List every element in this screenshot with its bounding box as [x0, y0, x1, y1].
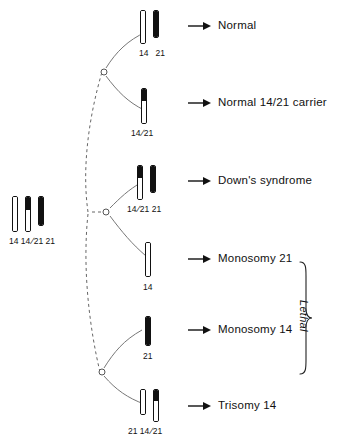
chromosome-21: [38, 196, 44, 226]
outcome-monosomy-21: Monosomy 21: [218, 252, 292, 264]
chromosome-14: [12, 196, 18, 232]
gamete-group-monosomy-21: [145, 242, 151, 277]
chromosome-14: [145, 242, 151, 277]
parent-genotype-label: 14 14/21 21: [9, 236, 55, 246]
arrow-head-6: [203, 402, 211, 410]
lethal-annotation: Lethal: [298, 300, 310, 332]
arrow-head-3: [203, 177, 211, 185]
chromosome-21: [145, 316, 151, 346]
arrow-head-1: [203, 22, 211, 30]
arrow-head-5: [203, 326, 211, 334]
outcome-monosomy-14: Monosomy 14: [218, 323, 292, 335]
arrow-head-2: [203, 99, 211, 107]
outcome-normal-carrier: Normal 14/21 carrier: [218, 96, 327, 108]
outcome-trisomy-14: Trisomy 14: [218, 399, 276, 411]
gamete-group-trisomy-14: [140, 389, 159, 422]
chromosome-21: [153, 10, 159, 38]
gamete-label-trisomy-14: 21 14/21: [128, 426, 162, 436]
dashed-edge-to-node-1: [86, 72, 102, 212]
meiosis-node-2: [103, 209, 109, 215]
branch-node3-upper: [104, 330, 142, 368]
chromosome-14-21-translocation: [153, 389, 159, 422]
gamete-group-normal: [140, 10, 159, 44]
gamete-label-monosomy-21: 14: [143, 282, 152, 292]
chromosome-14-21-translocation: [25, 196, 31, 232]
branch-node2-lower: [110, 216, 146, 256]
outcome-normal: Normal: [218, 19, 256, 31]
chromosome-21-short: [140, 389, 146, 415]
branch-node3-lower: [104, 376, 144, 404]
gamete-group-normal-carrier: [141, 88, 147, 124]
chromosome-14-21-translocation: [137, 165, 143, 200]
meiosis-node-3: [99, 369, 105, 375]
arrow-head-4: [203, 255, 211, 263]
chromosome-21: [150, 165, 156, 193]
gamete-label-downs-syndrome: 14/21 21: [127, 204, 161, 214]
dashed-edge-to-node-3: [86, 214, 100, 372]
gamete-label-monosomy-14: 21: [143, 351, 152, 361]
gamete-group-monosomy-14: [145, 316, 151, 346]
pedigree-edges: [0, 0, 337, 447]
parent-genotype-chromosomes: [12, 196, 44, 232]
translocation-segregation-diagram: 14 14/21 21 14 21 Normal: [0, 0, 337, 447]
gamete-label-normal-carrier: 14/21: [131, 128, 153, 138]
chromosome-14: [140, 10, 146, 44]
outcome-downs-syndrome: Down's syndrome: [218, 174, 312, 186]
branch-node1-lower: [106, 76, 144, 110]
meiosis-node-1: [101, 69, 107, 75]
chromosome-14-21-translocation: [141, 88, 147, 124]
gamete-label-normal: 14 21: [139, 48, 165, 58]
gamete-group-downs-syndrome: [137, 165, 156, 200]
